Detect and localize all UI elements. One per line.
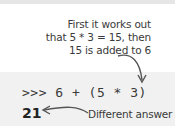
curved-arrow-down-icon [118,55,146,82]
curved-arrow-left-icon [43,106,88,114]
arrows [0,0,175,126]
